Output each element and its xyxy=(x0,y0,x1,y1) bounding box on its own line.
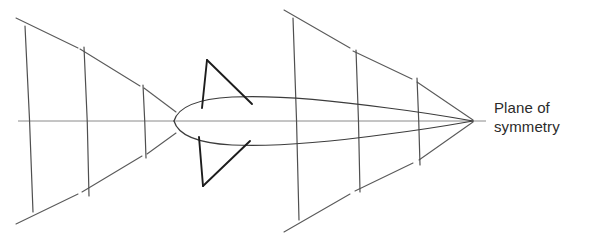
wing-surfaces xyxy=(199,60,252,186)
plane-of-symmetry-diagram: Plane of symmetry xyxy=(0,0,596,239)
generator-lines-right-lower xyxy=(284,122,473,232)
generator-lower-right-seg-1 xyxy=(284,194,350,232)
generator-upper-right-seg-2 xyxy=(353,51,412,79)
generator-lines-right-upper xyxy=(284,10,473,120)
body-upper-contour xyxy=(174,97,473,121)
wing-lower-root-chord xyxy=(199,137,203,186)
wing-lower-leading-edge xyxy=(203,141,250,186)
station-ribs-left xyxy=(25,26,146,212)
rib-right-1 xyxy=(293,18,299,220)
generator-lower-right-seg-3 xyxy=(419,122,473,160)
generator-upper-left-seg-2 xyxy=(80,49,140,86)
generator-lines-left-lower xyxy=(16,133,176,224)
body-lower-contour xyxy=(174,121,473,145)
plane-of-symmetry-label: Plane of symmetry xyxy=(494,98,594,136)
generator-upper-left-seg-3 xyxy=(144,88,176,112)
generator-lower-left-seg-3 xyxy=(147,133,176,154)
rib-left-1 xyxy=(25,26,33,212)
generator-upper-right-seg-3 xyxy=(417,82,473,120)
generator-lower-left-seg-1 xyxy=(16,194,78,224)
generator-lower-left-seg-2 xyxy=(82,156,142,192)
plane-of-symmetry-label-line-2: symmetry xyxy=(494,117,594,136)
generator-lower-right-seg-2 xyxy=(355,163,413,191)
plane-of-symmetry-label-line-1: Plane of xyxy=(494,98,594,117)
generator-lines-left-upper xyxy=(16,18,176,112)
